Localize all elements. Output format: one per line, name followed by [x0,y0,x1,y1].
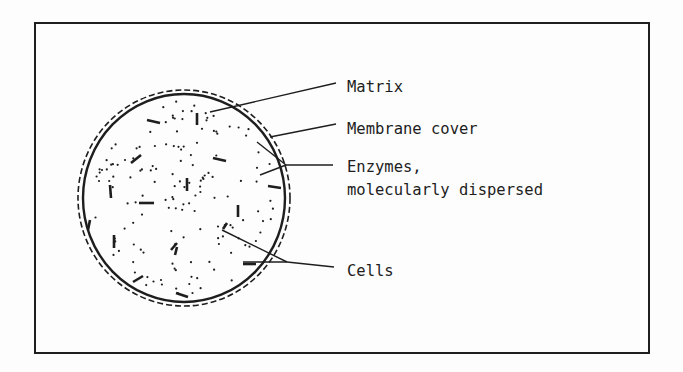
enzyme-dot [161,283,163,285]
enzyme-dot [171,196,173,198]
enzyme-dot [174,268,176,270]
enzyme-dot [201,128,203,130]
enzyme-dot [101,169,103,171]
enzyme-dot [175,288,177,290]
enzyme-dot [245,135,247,137]
enzyme-dot [133,243,135,245]
enzyme-dot [257,210,259,212]
enzyme-dot [183,236,185,238]
enzyme-dot [213,269,215,271]
enzyme-dot [247,128,249,130]
enzyme-dot [94,216,96,218]
enzyme-dot [111,147,113,149]
enzyme-dot [171,263,173,265]
enzyme-dot [199,191,201,193]
leader-matrix [210,83,336,112]
enzyme-dot [145,284,147,286]
enzyme-dot [232,227,234,229]
enzyme-dot [181,118,183,120]
enzyme-dot [256,167,258,169]
enzyme-dot [99,168,101,170]
enzyme-dot [141,214,143,216]
enzyme-dot [190,261,192,263]
bead [78,90,290,306]
enzyme-dot [181,209,183,211]
enzyme-dot [218,243,220,245]
enzyme-dot [215,154,217,156]
enzyme-dot [99,172,101,174]
label-cells: Cells [347,262,394,280]
enzyme-dot [136,147,138,149]
enzyme-dot [208,261,210,263]
enzyme-dot [238,126,240,128]
enzyme-dot [152,280,154,282]
enzyme-dot [162,106,164,108]
enzyme-dot [124,159,126,161]
leader-membrane [270,124,336,137]
enzyme-dot [112,254,114,256]
enzyme-dot [231,279,233,281]
enzyme-dot [230,252,232,254]
enzyme-dot [242,219,244,221]
enzyme-dot [191,110,193,112]
enzyme-dot [194,210,196,212]
enzyme-dot [106,168,108,170]
enzyme-dot [229,126,231,128]
enzyme-dot [206,117,208,119]
label-matrix: Matrix [347,78,403,96]
matrix-boundary [83,94,285,302]
enzyme-dot [175,101,177,103]
enzyme-dot [155,168,157,170]
enzyme-dot [110,164,112,166]
enzyme-dot [180,149,182,151]
enzyme-dot [269,163,271,165]
enzyme-dot [96,175,98,177]
enzyme-dot [108,180,110,182]
enzyme-dot [190,154,192,156]
enzyme-dot [182,110,184,112]
enzyme-dot [202,177,204,179]
enzyme-dot [154,181,156,183]
enzyme-dot [176,130,178,132]
enzyme-dot [229,224,231,226]
enzyme-dot [262,220,264,222]
label-enzymes: Enzymes, [347,158,422,176]
enzyme-dot [182,203,184,205]
enzyme-dot [191,292,193,294]
enzyme-dot [269,200,271,202]
enzyme-dot [180,160,182,162]
enzyme-dot [196,142,198,144]
enzyme-dot [142,195,144,197]
enzyme-dot [183,186,185,188]
enzyme-dot [255,240,257,242]
enzyme-dot [149,131,151,133]
enzyme-dot [117,164,119,166]
enzyme-dot [259,231,261,233]
enzyme-dot [200,180,202,182]
enzyme-dot [213,130,215,132]
enzyme-dot [124,228,126,230]
enzyme-dot [192,164,194,166]
enzyme-dot [127,202,129,204]
enzyme-dot [112,186,114,188]
enzyme-dot [106,159,108,161]
label-membrane-cover: Membrane cover [347,120,478,138]
enzyme-dot [213,197,215,199]
enzyme-dot [172,198,174,200]
enzyme-dot [188,182,190,184]
enzyme-dot [215,131,217,133]
enzyme-dot [165,143,167,145]
enzyme-dot [199,186,201,188]
enzyme-dot [170,230,172,232]
enzyme-dot [165,199,167,201]
enzyme-dot [205,112,207,114]
enzyme-dot [150,169,152,171]
enzyme-dot [207,172,209,174]
enzyme-dot [135,201,137,203]
enzyme-dot [146,276,148,278]
enzyme-dot [172,117,174,119]
enzyme-dot [134,271,136,273]
enzyme-dot [142,252,144,254]
cell-dash [110,185,111,198]
enzyme-dot [216,133,218,135]
